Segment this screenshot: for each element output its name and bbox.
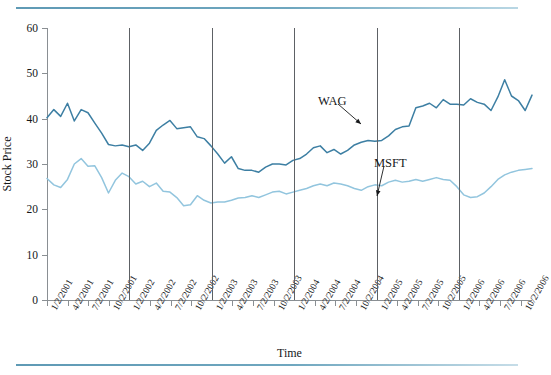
year-gridline bbox=[129, 28, 130, 300]
y-axis-tick-label: 50 bbox=[27, 67, 39, 79]
bottom-rule bbox=[16, 364, 518, 366]
x-axis-tick bbox=[47, 300, 48, 306]
x-axis-title: Time bbox=[47, 346, 532, 361]
x-axis-tick bbox=[109, 300, 110, 306]
y-axis-tick bbox=[42, 255, 47, 256]
x-axis-tick bbox=[479, 300, 480, 306]
y-axis-tick-label: 20 bbox=[27, 203, 39, 215]
y-axis-tick bbox=[42, 119, 47, 120]
plot-area: Stock Price 01020304050601/2/20014/2/200… bbox=[47, 28, 532, 300]
x-axis-tick bbox=[171, 300, 172, 306]
y-axis-tick bbox=[42, 28, 47, 29]
x-axis-tick bbox=[315, 300, 316, 306]
x-axis-tick bbox=[68, 300, 69, 306]
x-axis-tick bbox=[500, 300, 501, 306]
x-axis-tick bbox=[438, 300, 439, 306]
annotation-label-wag: WAG bbox=[318, 94, 346, 109]
y-axis-tick bbox=[42, 164, 47, 165]
x-axis-tick bbox=[521, 300, 522, 306]
x-axis-tick bbox=[335, 300, 336, 306]
figure-title-fragment bbox=[60, 0, 514, 5]
year-gridline bbox=[294, 28, 295, 300]
x-axis-tick bbox=[274, 300, 275, 306]
y-axis-tick bbox=[42, 209, 47, 210]
x-axis-tick bbox=[418, 300, 419, 306]
y-axis-tick-label: 40 bbox=[27, 113, 39, 125]
x-axis-tick bbox=[356, 300, 357, 306]
y-axis-tick-label: 30 bbox=[27, 158, 39, 170]
x-axis-tick bbox=[150, 300, 151, 306]
year-gridline bbox=[459, 28, 460, 300]
x-axis-tick bbox=[88, 300, 89, 306]
x-axis-tick bbox=[191, 300, 192, 306]
x-axis-tick bbox=[397, 300, 398, 306]
y-axis-tick-label: 0 bbox=[32, 294, 38, 306]
top-rule bbox=[16, 7, 518, 9]
year-gridline bbox=[212, 28, 213, 300]
y-axis-title: Stock Price bbox=[0, 137, 15, 192]
y-axis-tick-label: 60 bbox=[27, 22, 39, 34]
x-axis-tick bbox=[253, 300, 254, 306]
y-axis-tick bbox=[42, 73, 47, 74]
x-axis-tick bbox=[232, 300, 233, 306]
annotation-label-msft: MSFT bbox=[374, 156, 407, 171]
y-axis-tick-label: 10 bbox=[27, 249, 39, 261]
